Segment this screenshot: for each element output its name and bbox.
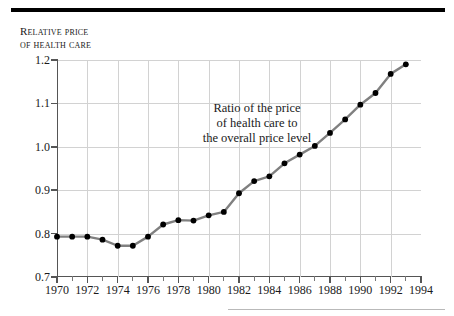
x-axis-tick [147,276,149,283]
data-point-marker [373,90,379,96]
x-axis-tick [360,276,362,283]
data-point-marker [357,102,363,108]
y-axis-tick-labels: 0.70.80.91.01.11.2 [16,60,50,277]
x-axis-tick-label: 1972 [75,283,99,297]
data-point-marker [206,212,212,218]
y-axis-tick-label: 1.0 [35,141,50,153]
x-axis-tick [56,276,58,283]
y-axis-tick-label: 0.9 [35,184,50,196]
y-axis-title: Relative price of health care [20,25,91,51]
bottom-divider-rule [228,309,445,310]
chart-annotation: Ratio of the price of health care to the… [182,101,332,146]
x-axis-tick [420,276,422,283]
x-axis-tick-label: 1990 [348,283,372,297]
x-axis-tick-label: 1982 [227,283,251,297]
x-axis-tick [390,276,392,283]
x-axis-tick-label: 1978 [166,283,190,297]
x-axis-tick-label: 1986 [288,283,312,297]
x-axis-tick-label: 1970 [45,283,69,297]
data-point-marker [191,218,197,224]
chart-plot-area [57,60,421,277]
data-point-marker [342,117,348,123]
data-point-marker [282,160,288,166]
data-point-marker [388,71,394,77]
x-axis-tick [208,276,210,283]
x-axis-tick-label: 1974 [106,283,130,297]
y-axis-tick-label: 1.1 [35,97,50,109]
series-line [57,64,406,245]
x-axis-tick [329,276,331,283]
x-axis-tick-label: 1980 [197,283,221,297]
x-axis-tick [178,276,180,283]
x-axis-tick-labels: 1970197219741976197819801982198419861988… [0,283,454,299]
chart-annotation-line-3: the overall price level [182,131,332,146]
data-point-marker [251,178,257,184]
y-axis-title-line-2: of health care [20,38,91,51]
data-point-marker [130,243,136,249]
y-axis-tick-label: 0.7 [35,271,50,283]
data-series-line [57,60,421,277]
data-point-marker [115,243,121,249]
data-point-marker [403,61,409,67]
data-point-marker [221,209,227,215]
chart-annotation-line-1: Ratio of the price [182,101,332,116]
data-point-marker [84,234,90,240]
data-point-marker [100,237,106,243]
x-axis-tick-label: 1992 [379,283,403,297]
top-divider-rule [11,8,445,12]
data-point-marker [266,173,272,179]
x-axis-tick [238,276,240,283]
x-axis-tick [269,276,271,283]
x-axis-tick [299,276,301,283]
data-point-marker [54,234,60,240]
data-point-marker [297,152,303,158]
y-axis-tick-label: 1.2 [35,54,50,66]
data-point-marker [160,222,166,228]
data-point-marker [175,217,181,223]
x-axis-tick [87,276,89,283]
x-axis-tick-label: 1994 [409,283,433,297]
data-point-marker [145,234,151,240]
y-axis-tick-label: 0.8 [35,228,50,240]
chart-annotation-line-2: of health care to [182,116,332,131]
x-axis-tick [117,276,119,283]
data-point-marker [69,234,75,240]
x-axis-tick-label: 1984 [257,283,281,297]
y-axis-title-line-1: Relative price [20,25,91,38]
data-point-marker [236,190,242,196]
x-axis-tick-label: 1988 [318,283,342,297]
x-axis-tick-label: 1976 [136,283,160,297]
